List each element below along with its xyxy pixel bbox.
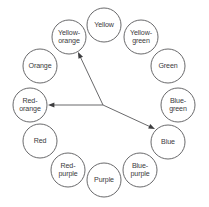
color-node-blue-green[interactable]: Blue-green <box>161 88 195 122</box>
node-label-yellow-green: Yellow-green <box>130 29 153 45</box>
arrow-head-icon <box>78 52 83 59</box>
arrow-shaft <box>103 105 150 127</box>
color-node-yellow-green[interactable]: Yellow-green <box>124 20 158 54</box>
arrow-to-yellow-orange <box>78 52 103 105</box>
node-label-yellow-orange: Yellow-orange <box>58 29 81 45</box>
color-node-yellow[interactable]: Yellow <box>87 8 121 42</box>
node-label-green: Green <box>158 62 177 70</box>
node-label-red: Red <box>34 137 47 145</box>
arrow-shaft <box>80 57 103 105</box>
node-label-purple: Purple <box>94 176 114 184</box>
color-node-red-purple[interactable]: Red-purple <box>51 153 85 187</box>
arrow-to-red-orange <box>48 103 103 108</box>
color-node-red[interactable]: Red <box>23 124 57 158</box>
color-node-orange[interactable]: Orange <box>23 49 57 83</box>
color-node-yellow-orange[interactable]: Yellow-orange <box>52 20 86 54</box>
relation-arrow-layer <box>48 52 155 129</box>
node-label-blue: Blue <box>161 138 175 146</box>
color-node-layer: YellowYellow-greenGreenBlue-greenBlueBlu… <box>13 8 195 197</box>
color-node-green[interactable]: Green <box>151 49 185 83</box>
node-label-blue-purple: Blue-purple <box>130 162 149 178</box>
node-label-red-purple: Red-purple <box>58 162 77 178</box>
node-label-yellow: Yellow <box>94 21 115 29</box>
arrow-head-icon <box>48 103 54 108</box>
color-wheel-diagram: YellowYellow-greenGreenBlue-greenBlueBlu… <box>0 0 209 207</box>
node-label-orange: Orange <box>28 62 51 70</box>
color-node-red-orange[interactable]: Red-orange <box>13 88 47 122</box>
color-node-purple[interactable]: Purple <box>87 163 121 197</box>
node-label-blue-green: Blue-green <box>169 97 187 113</box>
color-node-blue[interactable]: Blue <box>151 125 185 159</box>
arrow-to-blue <box>103 105 155 129</box>
color-node-blue-purple[interactable]: Blue-purple <box>123 153 157 187</box>
arrow-head-icon <box>148 124 155 129</box>
color-wheel-svg: YellowYellow-greenGreenBlue-greenBlueBlu… <box>0 0 209 207</box>
